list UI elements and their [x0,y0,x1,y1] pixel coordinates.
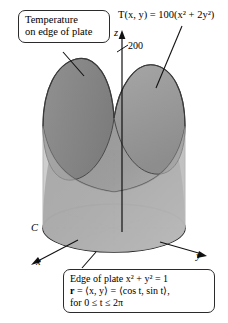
caption-line-1: Edge of plate x² + y² = 1 [70,273,210,285]
temperature-surface-figure: Temperature on edge of plate T(x, y) = 1… [0,0,228,323]
caption-line-2: r = ⟨x, y⟩ = ⟨cos t, sin t⟩, [70,285,210,297]
z-axis-arrowhead [119,30,126,39]
callout-temperature-on-edge: Temperature on edge of plate [18,10,110,43]
callout-line-1: Temperature [25,14,104,26]
caption-line-3: for 0 ≤ t ≤ 2π [70,297,210,309]
z-axis-tick-label: 200 [128,40,143,51]
caption-edge-of-plate: Edge of plate x² + y² = 1 r = ⟨x, y⟩ = ⟨… [63,269,215,313]
x-axis-label: x [36,256,41,267]
caption-line-2-rest: = ⟨x, y⟩ = ⟨cos t, sin t⟩, [74,285,169,296]
z-axis-label: z [114,27,118,38]
y-axis-label: y [196,250,201,261]
callout-line-2: on edge of plate [25,26,104,38]
x-axis [36,240,78,262]
curve-c-label: C [31,222,38,233]
temperature-function-label: T(x, y) = 100(x² + 2y²) [118,9,214,20]
caption-leader-line [82,252,96,268]
